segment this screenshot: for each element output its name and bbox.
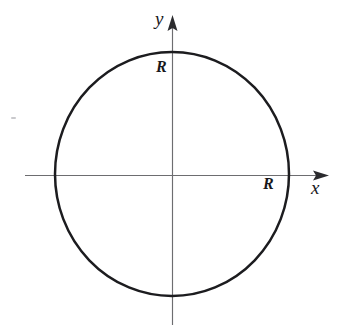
x-axis-label: x xyxy=(311,178,319,197)
diagram-canvas xyxy=(0,0,343,328)
y-axis-label: y xyxy=(155,9,163,28)
scan-speck xyxy=(11,117,16,119)
radius-label-right: R xyxy=(263,176,274,192)
radius-label-top: R xyxy=(156,59,167,75)
circle-radius-diagram: y x R R xyxy=(0,0,343,328)
